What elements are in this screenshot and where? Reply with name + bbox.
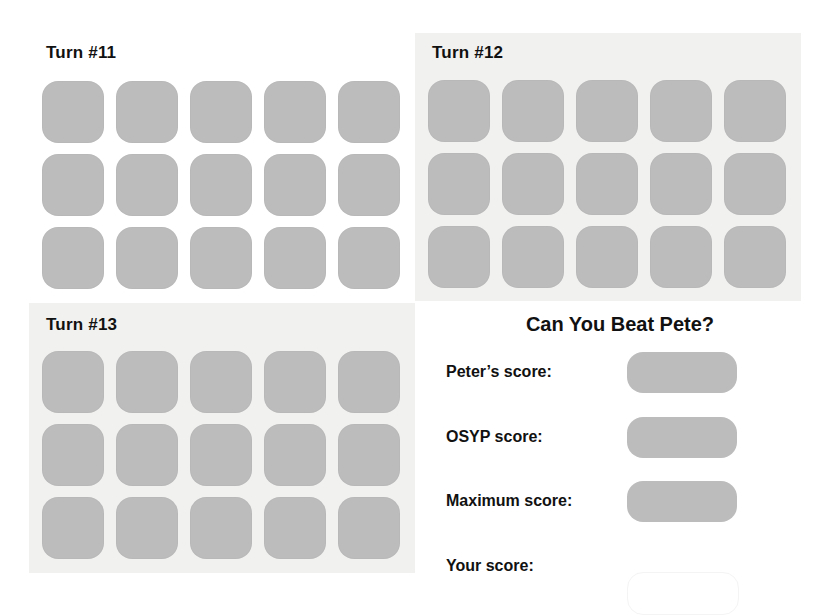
tile-hidden[interactable]	[190, 227, 252, 289]
tile-hidden[interactable]	[502, 80, 564, 142]
tile-hidden[interactable]	[724, 80, 786, 142]
tile-hidden[interactable]	[724, 226, 786, 288]
tile-hidden[interactable]	[428, 80, 490, 142]
turn-13-title: Turn #13	[46, 315, 117, 335]
tile-hidden[interactable]	[42, 351, 104, 413]
turn-12-title: Turn #12	[432, 43, 503, 63]
tile-hidden[interactable]	[650, 153, 712, 215]
tile-hidden[interactable]	[428, 153, 490, 215]
tile-hidden[interactable]	[42, 424, 104, 486]
tile-hidden[interactable]	[42, 81, 104, 143]
score-row-yours: Your score:	[446, 546, 786, 588]
tile-hidden[interactable]	[190, 154, 252, 216]
tile-hidden[interactable]	[116, 351, 178, 413]
tile-hidden[interactable]	[116, 497, 178, 559]
tile-hidden[interactable]	[576, 153, 638, 215]
tile-hidden[interactable]	[502, 153, 564, 215]
score-label: Peter’s score:	[446, 363, 552, 381]
tile-hidden[interactable]	[502, 226, 564, 288]
tile-hidden[interactable]	[264, 81, 326, 143]
score-label: Your score:	[446, 557, 534, 575]
tile-hidden[interactable]	[338, 497, 400, 559]
your-score-box[interactable]	[627, 572, 739, 615]
tile-hidden[interactable]	[190, 424, 252, 486]
tile-hidden[interactable]	[264, 424, 326, 486]
tile-hidden[interactable]	[650, 226, 712, 288]
tile-hidden[interactable]	[338, 154, 400, 216]
tile-hidden[interactable]	[338, 424, 400, 486]
tile-hidden[interactable]	[116, 424, 178, 486]
turn-13-panel: Turn #13	[29, 303, 415, 573]
score-row-osyp: OSYP score:	[446, 417, 786, 459]
tile-hidden[interactable]	[264, 497, 326, 559]
turn-11-panel: Turn #11	[28, 33, 414, 301]
tile-hidden[interactable]	[650, 80, 712, 142]
tile-hidden[interactable]	[338, 81, 400, 143]
turn-12-tile-grid	[428, 80, 786, 288]
tile-hidden[interactable]	[264, 154, 326, 216]
tile-hidden[interactable]	[576, 226, 638, 288]
tile-hidden[interactable]	[428, 226, 490, 288]
turn-11-tile-grid	[42, 81, 400, 289]
tile-hidden[interactable]	[264, 351, 326, 413]
tile-hidden[interactable]	[116, 227, 178, 289]
turn-12-panel: Turn #12	[415, 33, 801, 301]
tile-hidden[interactable]	[338, 351, 400, 413]
tile-hidden[interactable]	[338, 227, 400, 289]
tile-hidden[interactable]	[116, 154, 178, 216]
tile-hidden[interactable]	[264, 227, 326, 289]
tile-hidden[interactable]	[190, 351, 252, 413]
score-row-maximum: Maximum score:	[446, 481, 786, 523]
turn-11-title: Turn #11	[46, 43, 116, 63]
score-label: Maximum score:	[446, 492, 572, 510]
turn-13-tile-grid	[42, 351, 400, 559]
tile-hidden[interactable]	[42, 154, 104, 216]
score-panel: Can You Beat Pete? Peter’s score: OSYP s…	[420, 303, 820, 573]
peter-score-box[interactable]	[627, 352, 737, 393]
tile-hidden[interactable]	[42, 227, 104, 289]
tile-hidden[interactable]	[190, 81, 252, 143]
tile-hidden[interactable]	[724, 153, 786, 215]
tile-hidden[interactable]	[190, 497, 252, 559]
score-row-peter: Peter’s score:	[446, 352, 786, 394]
score-panel-title: Can You Beat Pete?	[420, 313, 820, 336]
tile-hidden[interactable]	[42, 497, 104, 559]
osyp-score-box[interactable]	[627, 417, 737, 458]
score-label: OSYP score:	[446, 428, 543, 446]
tile-hidden[interactable]	[576, 80, 638, 142]
tile-hidden[interactable]	[116, 81, 178, 143]
maximum-score-box[interactable]	[627, 481, 737, 522]
